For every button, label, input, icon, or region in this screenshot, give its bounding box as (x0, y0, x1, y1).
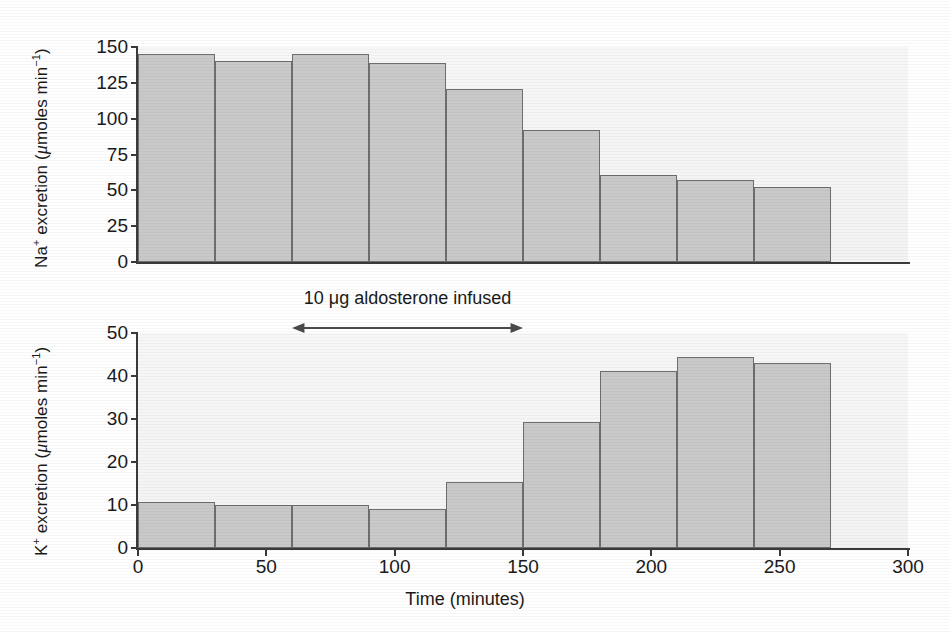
bar (292, 505, 369, 548)
y-tick-mark (131, 82, 138, 84)
y-tick-label: 30 (107, 408, 128, 430)
y-tick-mark (131, 461, 138, 463)
x-tick-mark (522, 548, 524, 556)
y-axis-title-na-text: Na+ excretion (μmoles min−1) (32, 48, 51, 268)
x-axis-labels: 050100150200250300 (138, 556, 918, 582)
x-tick-label: 300 (892, 556, 924, 578)
bar (369, 63, 446, 262)
y-tick-label: 20 (107, 451, 128, 473)
bar (138, 502, 215, 548)
y-tick-label: 10 (107, 494, 128, 516)
figure-canvas: Na+ excretion (μmoles min−1) 02550751001… (0, 0, 950, 632)
y-tick-mark (131, 154, 138, 156)
x-tick-mark (394, 548, 396, 556)
y-tick-mark (131, 189, 138, 191)
bar (215, 61, 292, 262)
bar (292, 54, 369, 262)
x-tick-mark (907, 548, 909, 556)
x-tick-label: 50 (256, 556, 277, 578)
x-axis-title-text: Time (minutes) (405, 589, 524, 610)
y-tick-label: 150 (96, 36, 128, 58)
y-tick-label: 0 (117, 537, 128, 559)
x-tick-label: 100 (379, 556, 411, 578)
x-tick-mark (779, 548, 781, 556)
bar (754, 363, 831, 548)
y-tick-label: 125 (96, 72, 128, 94)
bar (677, 180, 754, 262)
bar (600, 175, 677, 262)
y-tick-label: 25 (107, 215, 128, 237)
y-tick-mark (131, 225, 138, 227)
y-tick-label: 0 (117, 251, 128, 273)
x-tick-mark (265, 548, 267, 556)
y-tick-label: 50 (107, 322, 128, 344)
x-tick-label: 200 (635, 556, 667, 578)
bar (677, 357, 754, 548)
x-tick-label: 0 (133, 556, 144, 578)
y-axis-labels-k: 01020304050 (72, 333, 128, 548)
y-tick-mark (131, 375, 138, 377)
y-tick-label: 75 (107, 144, 128, 166)
y-axis-title-k-text: K+ excretion (μmoles min−1) (32, 347, 51, 556)
plot-area-k (138, 333, 908, 548)
x-tick-mark (650, 548, 652, 556)
y-axis-title-k: K+ excretion (μmoles min−1) (30, 347, 52, 556)
panel-na-excretion: Na+ excretion (μmoles min−1) 02550751001… (0, 0, 950, 290)
y-tick-mark (131, 261, 138, 263)
x-tick-label: 250 (764, 556, 796, 578)
bar (369, 509, 446, 548)
y-tick-label: 40 (107, 365, 128, 387)
bar (215, 505, 292, 548)
plot-area-na (138, 47, 908, 262)
x-tick-label: 150 (507, 556, 539, 578)
panel-k-excretion: K+ excretion (μmoles min−1) 01020304050 … (0, 290, 950, 632)
y-tick-mark (131, 504, 138, 506)
y-tick-label: 100 (96, 108, 128, 130)
y-axis-labels-na: 0255075100125150 (72, 47, 128, 262)
x-axis-title: Time (minutes) (0, 589, 950, 610)
y-tick-mark (131, 332, 138, 334)
y-axis-title-na: Na+ excretion (μmoles min−1) (30, 48, 52, 268)
y-tick-mark (131, 418, 138, 420)
y-tick-label: 50 (107, 179, 128, 201)
bar (523, 422, 600, 548)
bar (446, 482, 523, 548)
bar (754, 187, 831, 262)
bar (446, 89, 523, 262)
y-tick-mark (131, 118, 138, 120)
bar (138, 54, 215, 262)
bar (523, 130, 600, 262)
x-tick-mark (137, 548, 139, 556)
bar (600, 371, 677, 548)
y-tick-mark (131, 46, 138, 48)
x-axis-spine-na (136, 262, 910, 264)
